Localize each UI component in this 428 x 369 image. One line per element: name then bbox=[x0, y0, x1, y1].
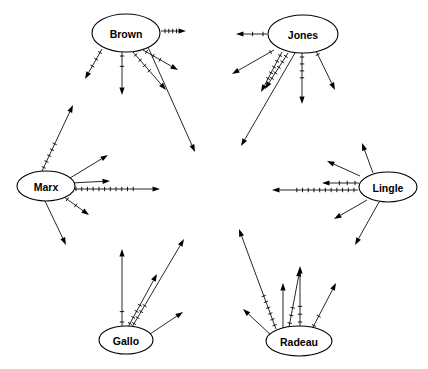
edge-jones bbox=[241, 53, 295, 146]
edge-marx bbox=[71, 179, 110, 184]
edge-lingle bbox=[272, 187, 358, 192]
edge-brown bbox=[133, 52, 166, 90]
node-label-jones: Jones bbox=[288, 29, 319, 41]
edge-gallo bbox=[128, 274, 157, 327]
edge-marx bbox=[72, 186, 160, 191]
edge-brown bbox=[161, 28, 186, 33]
edge-radeau bbox=[243, 309, 272, 336]
edge-lingle bbox=[355, 202, 379, 245]
node-gallo[interactable]: Gallo bbox=[99, 326, 153, 354]
node-label-lingle: Lingle bbox=[373, 182, 404, 194]
edge-jones bbox=[236, 31, 267, 36]
edge-marx bbox=[70, 155, 108, 178]
sociogram-diagram: BrownJonesMarxLingleGalloRadeau bbox=[0, 0, 428, 369]
edge-lingle bbox=[362, 143, 373, 173]
edge-brown bbox=[148, 47, 195, 152]
nodes-layer: BrownJonesMarxLingleGalloRadeau bbox=[17, 14, 417, 356]
node-marx[interactable]: Marx bbox=[17, 171, 75, 201]
edge-jones bbox=[232, 50, 274, 74]
edge-radeau bbox=[280, 283, 285, 328]
edges-layer bbox=[42, 28, 379, 336]
edge-jones bbox=[299, 53, 304, 104]
edge-jones bbox=[316, 51, 335, 90]
edge-gallo bbox=[150, 312, 183, 334]
graph-canvas: BrownJonesMarxLingleGalloRadeau bbox=[0, 0, 428, 369]
edge-gallo bbox=[119, 249, 124, 326]
edge-radeau bbox=[288, 269, 302, 327]
node-label-brown: Brown bbox=[110, 28, 143, 40]
edge-lingle bbox=[334, 200, 367, 219]
node-label-gallo: Gallo bbox=[113, 335, 139, 347]
edge-lingle bbox=[327, 161, 360, 176]
edge-brown bbox=[143, 50, 178, 70]
node-brown[interactable]: Brown bbox=[92, 14, 160, 52]
node-radeau[interactable]: Radeau bbox=[266, 326, 332, 356]
edge-marx bbox=[64, 197, 89, 215]
node-jones[interactable]: Jones bbox=[268, 15, 338, 53]
edge-jones bbox=[261, 52, 282, 92]
edge-marx bbox=[42, 105, 73, 171]
edge-brown bbox=[85, 49, 102, 79]
edge-lingle bbox=[322, 180, 359, 185]
node-label-radeau: Radeau bbox=[280, 336, 318, 348]
edge-radeau bbox=[239, 229, 277, 329]
edge-marx bbox=[45, 201, 66, 245]
edge-brown bbox=[119, 52, 124, 95]
node-lingle[interactable]: Lingle bbox=[359, 172, 417, 202]
node-label-marx: Marx bbox=[34, 181, 59, 193]
edge-radeau bbox=[312, 283, 336, 329]
